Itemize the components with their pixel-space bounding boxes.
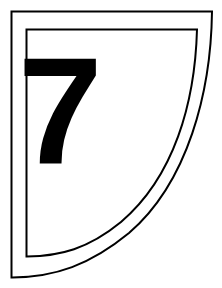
shield-outline-drawing <box>0 0 222 288</box>
figure-canvas: 7 <box>0 0 222 288</box>
